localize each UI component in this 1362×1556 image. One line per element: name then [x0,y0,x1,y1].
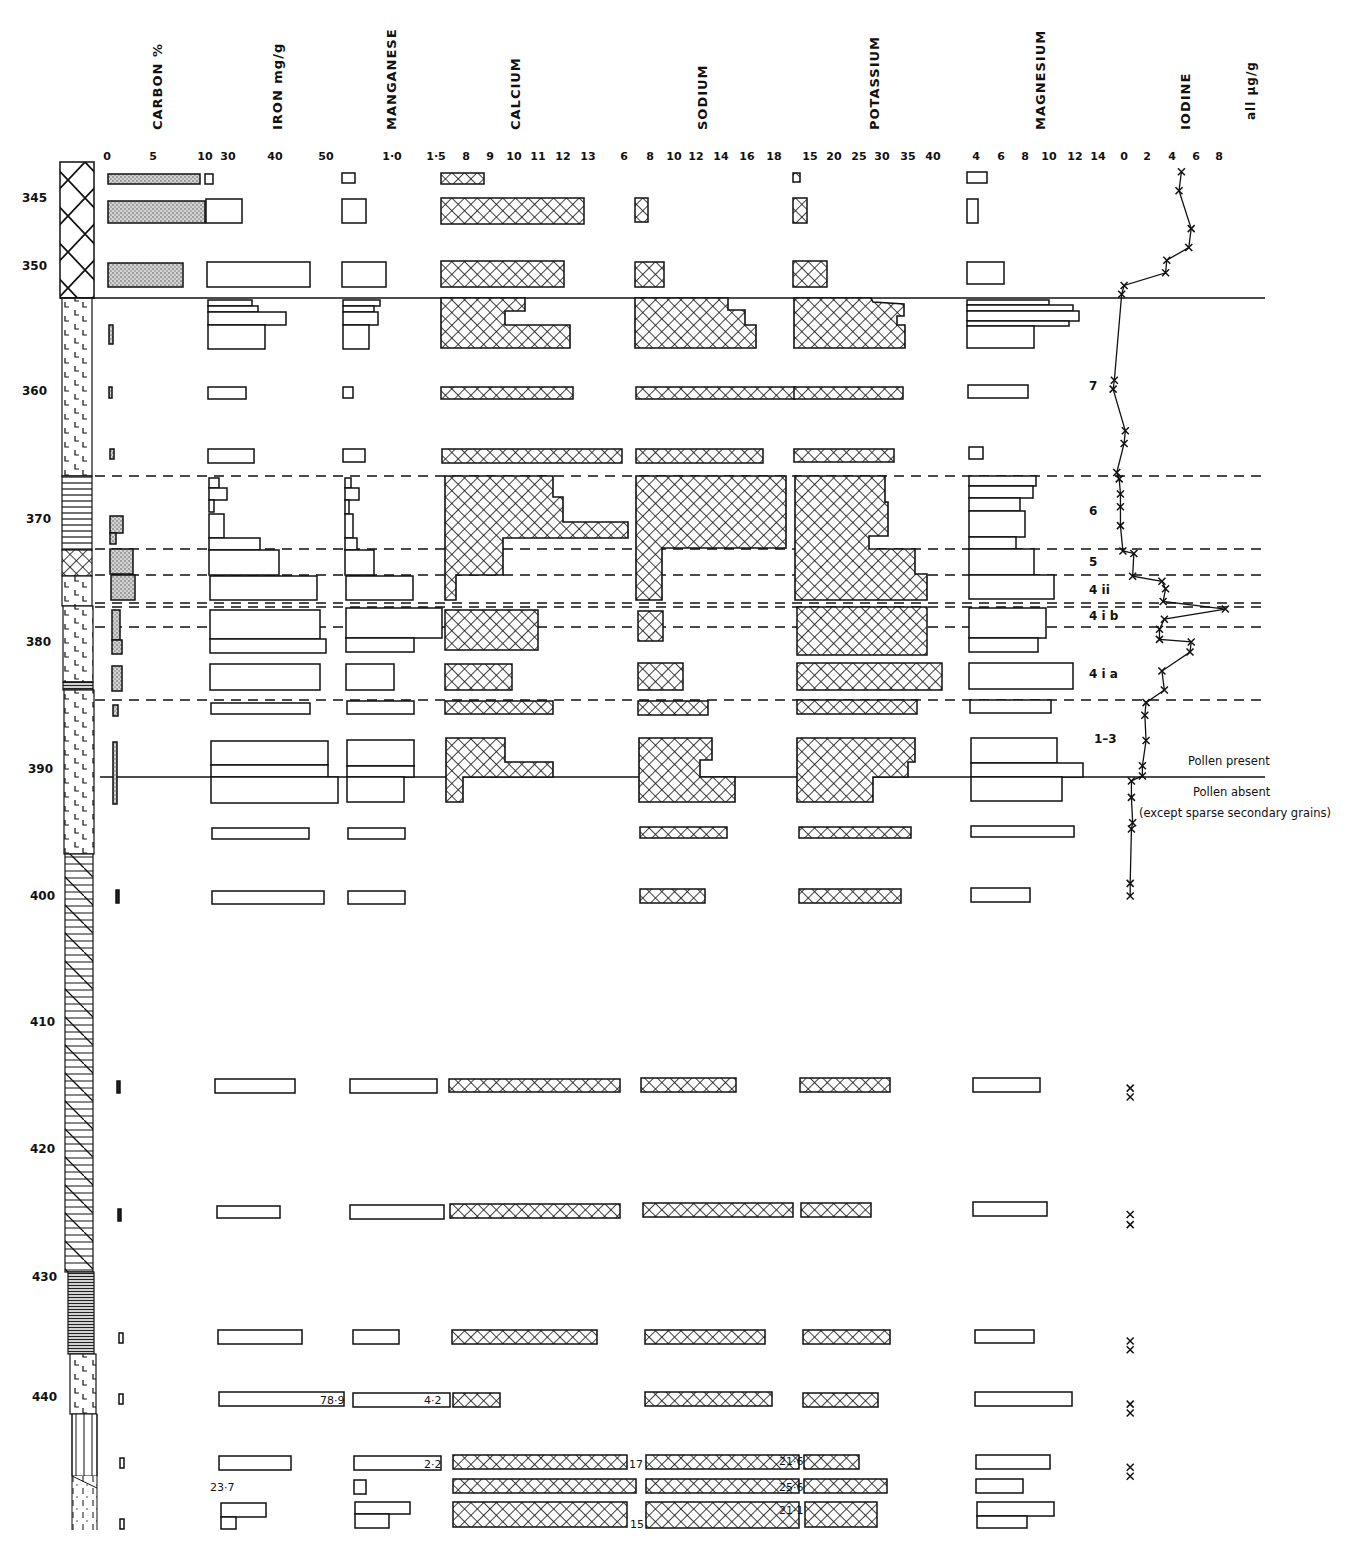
data-bar [453,1502,627,1527]
depth-label: 420 [30,1142,55,1156]
tick-label: 12 [1067,150,1082,163]
data-bar [119,1333,123,1343]
data-bar [210,610,320,639]
data-bar [639,738,735,802]
tick-label: 10 [197,150,213,163]
data-bar [110,449,114,459]
data-bar [636,387,795,399]
data-bar [441,173,484,184]
data-bar [441,298,570,348]
data-bar [354,1480,366,1494]
tick-label: 4 [1168,150,1176,163]
data-bar [967,199,978,223]
data-bar [970,700,1051,713]
data-bar [112,666,122,691]
data-bar [355,1514,389,1528]
data-bar [969,549,1034,575]
data-bar [120,1458,124,1468]
iodine-point-icon [1127,1337,1134,1344]
data-bar [645,1392,772,1406]
data-bar [206,199,242,223]
data-bar [118,1209,121,1221]
data-bar [108,174,200,184]
tick-label: 12 [555,150,570,163]
data-bar [209,500,214,512]
tick-label: 6 [620,150,628,163]
data-bar [971,826,1074,837]
data-bar [109,387,112,398]
stratigraphic-chart: CARBON % IRON mg/g MANGANESE CALCIUM SOD… [0,0,1362,1556]
iodine-point-icon [1127,1221,1134,1228]
data-bar [342,262,386,287]
data-bar [347,701,414,714]
data-bar [342,199,366,223]
data-bar [453,1479,636,1493]
data-bar [967,305,1073,311]
tick-label: 1·0 [382,150,402,163]
data-bar [969,498,1020,511]
data-bar [976,1455,1050,1469]
data-bar [113,705,118,716]
data-bar [799,889,901,903]
annotation: 15 [630,1518,644,1531]
iodine-point-icon [1127,1211,1134,1218]
data-bar [794,298,905,348]
annotation: 4·2 [424,1394,442,1407]
tick-label: 6 [1192,150,1200,163]
data-bar [967,172,987,183]
tick-label: 9 [486,150,494,163]
tick-label: 13 [580,150,595,163]
pollen-present-label: Pollen present [1188,754,1270,768]
zone-label: 7 [1089,379,1097,393]
data-bar [343,449,365,462]
data-bar [219,1456,291,1470]
data-bar [450,1204,620,1218]
annotation: 78·9 [320,1394,345,1407]
tick-label: 14 [1090,150,1106,163]
zone-label: 5 [1089,555,1097,569]
data-bar [969,608,1046,638]
data-bar [343,387,353,398]
iodine-point-icon [1127,1473,1134,1480]
data-bar [641,1078,736,1092]
pollen-absent-label: Pollen absent [1193,785,1271,799]
data-bar [793,173,800,182]
data-bar [977,1516,1027,1528]
data-bar [218,1330,302,1344]
data-bar [347,766,414,777]
tick-label: 6 [997,150,1005,163]
tick-label: 1·5 [426,150,446,163]
zone-label: 4 i a [1089,667,1118,681]
zone-label: 4 ii [1089,583,1110,597]
data-bar [209,488,227,500]
data-bar [445,476,628,600]
data-bar [441,261,564,287]
data-bar [971,777,1062,801]
data-bar [346,664,394,690]
data-bar [108,201,205,223]
data-bar [345,500,349,514]
data-bar [636,449,763,463]
data-bar [208,312,286,325]
tick-label: 10 [1041,150,1057,163]
data-bar [343,306,374,312]
data-bar [345,538,357,550]
data-bar [971,888,1030,902]
data-bar [969,447,983,459]
pollen-note-label: (except sparse secondary grains) [1139,806,1331,820]
depth-axis: 345350360370380390400410420430440 [22,191,57,1404]
data-bar [967,262,1004,284]
data-bar [453,1393,500,1407]
data-bar [794,449,894,462]
data-bar [116,890,119,903]
data-bar [803,1393,878,1407]
data-bar [355,1502,410,1514]
tick-label: 16 [739,150,755,163]
data-bar [212,828,309,839]
data-bar [215,1079,295,1093]
tick-label: 8 [1215,150,1223,163]
header-carbon: CARBON % [150,43,165,130]
data-bar [108,263,183,287]
data-bar [209,550,279,575]
data-bar [969,575,1054,599]
